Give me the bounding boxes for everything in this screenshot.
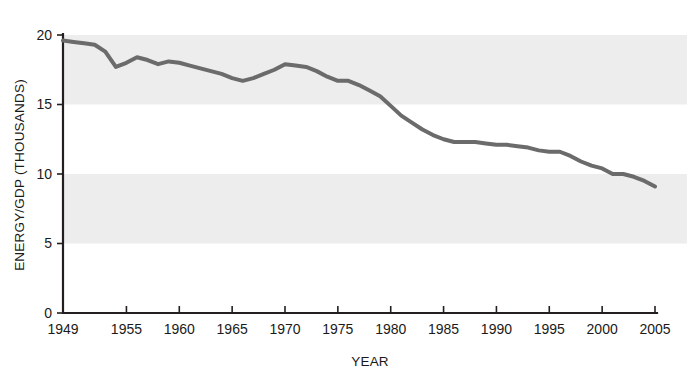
y-tick-label: 15 <box>36 96 52 112</box>
x-tick-label: 1960 <box>164 321 195 337</box>
y-tick-label: 5 <box>44 235 52 251</box>
energy-gdp-line-chart: 05101520 1949195519601965197019751980198… <box>0 0 687 383</box>
y-tick-labels: 05101520 <box>36 27 52 321</box>
x-tick-label: 1990 <box>481 321 512 337</box>
x-tick-label: 2005 <box>639 321 670 337</box>
x-tick-label: 1985 <box>428 321 459 337</box>
y-tick-label: 20 <box>36 27 52 43</box>
shaded-band <box>63 174 687 244</box>
x-tick-label: 2000 <box>587 321 618 337</box>
x-tick-label: 1949 <box>47 321 78 337</box>
x-tick-label: 1970 <box>269 321 300 337</box>
x-tick-label: 1975 <box>322 321 353 337</box>
y-tick-label: 0 <box>44 305 52 321</box>
x-tick-marks <box>63 303 655 313</box>
y-axis-title: ENERGY/GDP (THOUSANDS) <box>12 79 27 271</box>
x-tick-label: 1980 <box>375 321 406 337</box>
shaded-bands <box>63 35 687 244</box>
x-tick-labels: 1949195519601965197019751980198519901995… <box>47 321 670 337</box>
chart-svg: 05101520 1949195519601965197019751980198… <box>0 0 687 383</box>
x-axis-title: YEAR <box>351 354 389 369</box>
x-tick-label: 1955 <box>111 321 142 337</box>
x-tick-label: 1965 <box>217 321 248 337</box>
x-tick-label: 1995 <box>534 321 565 337</box>
y-tick-label: 10 <box>36 166 52 182</box>
